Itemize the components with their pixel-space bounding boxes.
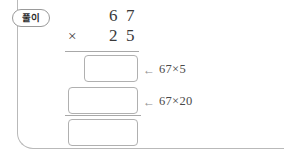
multiplier-tens-digit: 2 [105,26,122,46]
multiplier-row: × 2 5 [65,26,139,46]
answer-box-total-product[interactable] [68,119,138,146]
solution-tag: 풀이 [12,9,50,27]
multiplicand-ones-digit: 7 [122,6,139,26]
solution-tag-label: 풀이 [22,13,40,23]
multiplier-ones-digit: 5 [122,26,139,46]
multiplication-rule-bottom [65,115,141,116]
annotation-partial-ones: ← 67×5 [143,62,186,77]
answer-row-partial-tens [68,87,138,114]
left-arrow-icon: ← [143,96,155,108]
answer-row-partial-ones [84,55,138,82]
multiplicand-tens-digit: 6 [105,6,122,26]
answer-box-partial-product-ones[interactable] [84,55,138,82]
answer-box-partial-product-tens[interactable] [68,87,138,114]
annotation-partial-tens-text: 67×20 [159,94,193,109]
multiplication-rule-top [65,51,139,52]
multiplication-operator-icon: × [65,28,77,45]
worksheet-page: 풀이 6 7 × 2 5 ← 67×5 ← 67×20 [0,0,284,162]
annotation-partial-ones-text: 67×5 [159,62,186,77]
answer-row-total [68,119,138,146]
left-arrow-icon: ← [143,64,155,76]
annotation-partial-tens: ← 67×20 [143,94,193,109]
vertical-multiplication: 6 7 × 2 5 [65,6,139,52]
multiplicand-row: 6 7 [65,6,139,26]
